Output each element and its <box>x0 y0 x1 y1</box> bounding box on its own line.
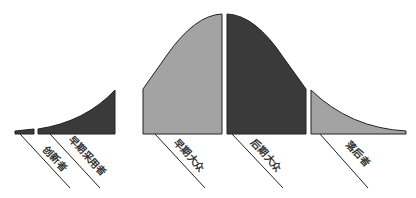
label-early-adopters: 早期采用者 <box>67 133 110 178</box>
segment-laggards <box>311 90 406 134</box>
segment-innovators <box>15 129 34 134</box>
segment-early-adopters <box>38 90 115 134</box>
label-laggards: 落后者 <box>344 138 373 168</box>
label-late-majority: 后期大众 <box>249 136 286 174</box>
segment-late-majority <box>227 14 306 134</box>
adoption-curve-diagram: 创新者 早期采用者 早期大众 后期大众 落后者 <box>0 0 416 198</box>
label-early-majority: 早期大众 <box>172 136 209 174</box>
label-innovators: 创新者 <box>40 142 70 173</box>
segment-early-majority <box>143 14 222 134</box>
